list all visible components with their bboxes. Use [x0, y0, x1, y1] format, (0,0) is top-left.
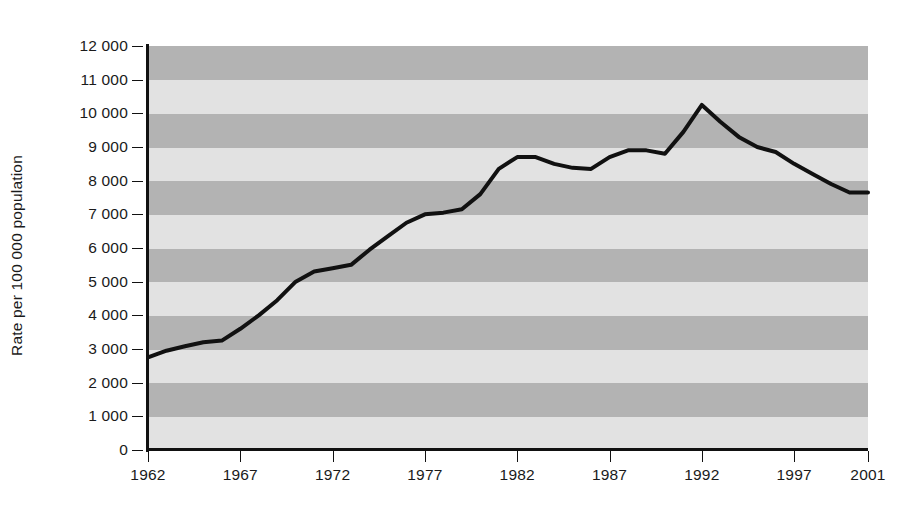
y-tick-label: 6 000	[88, 239, 128, 257]
y-tick-label: 8 000	[88, 172, 128, 190]
y-tick-mark	[132, 147, 143, 148]
y-tick-label: 4 000	[88, 306, 128, 324]
y-tick-label: 10 000	[79, 104, 128, 122]
y-tick-mark	[132, 315, 143, 316]
x-tick-mark	[240, 451, 241, 462]
y-tick-mark	[132, 214, 143, 215]
x-tick-label: 1967	[223, 466, 258, 484]
y-tick-mark	[132, 80, 143, 81]
y-tick-mark	[132, 416, 143, 417]
y-tick-label: 3 000	[88, 340, 128, 358]
y-tick-label: 1 000	[88, 407, 128, 425]
x-tick-label: 1977	[407, 466, 442, 484]
y-tick-mark	[132, 282, 143, 283]
y-tick-label: 0	[119, 441, 128, 459]
x-tick-mark	[610, 451, 611, 462]
y-tick-label: 2 000	[88, 374, 128, 392]
x-tick-label: 1997	[776, 466, 811, 484]
y-tick-label: 5 000	[88, 273, 128, 291]
x-tick-mark	[425, 451, 426, 462]
y-tick-label: 12 000	[79, 37, 128, 55]
x-tick-mark	[333, 451, 334, 462]
y-tick-label: 11 000	[81, 71, 128, 89]
y-axis-tick-labels: 01 0002 0003 0004 0005 0006 0007 0008 00…	[24, 0, 136, 511]
x-tick-label: 1982	[500, 466, 535, 484]
line-series-rate	[148, 105, 868, 358]
y-tick-mark	[132, 248, 143, 249]
y-tick-mark	[132, 46, 143, 47]
x-tick-mark	[794, 451, 795, 462]
x-tick-label: 1962	[130, 466, 165, 484]
y-tick-mark	[132, 383, 143, 384]
x-tick-mark	[868, 451, 869, 462]
x-tick-mark	[148, 451, 149, 462]
x-tick-label: 1972	[315, 466, 350, 484]
y-tick-mark	[132, 113, 143, 114]
x-tick-label: 1987	[592, 466, 627, 484]
x-tick-label: 2001	[850, 466, 885, 484]
x-tick-mark	[702, 451, 703, 462]
y-tick-mark	[132, 450, 143, 451]
data-series-layer	[148, 46, 868, 450]
x-tick-mark	[517, 451, 518, 462]
y-tick-label: 9 000	[88, 138, 128, 156]
y-tick-mark	[132, 349, 143, 350]
x-tick-label: 1992	[684, 466, 719, 484]
y-tick-label: 7 000	[88, 205, 128, 223]
chart-figure: Rate per 100 000 population 01 0002 0003…	[0, 0, 913, 511]
y-tick-mark	[132, 181, 143, 182]
